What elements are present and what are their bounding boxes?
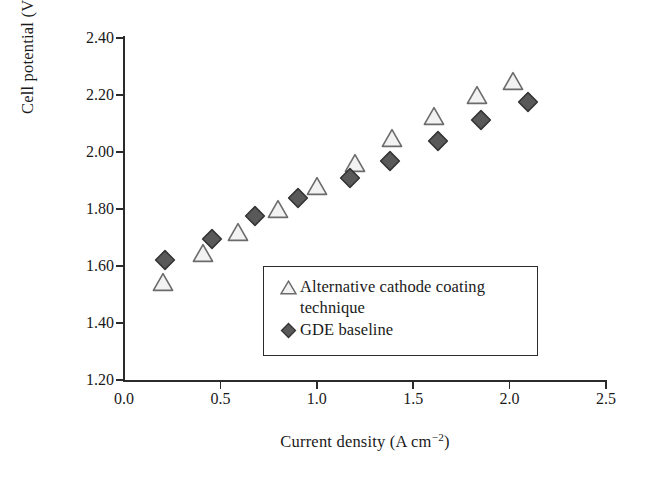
x-axis-title: Current density (A cm−2): [124, 432, 606, 452]
x-tick-label: 1.0: [287, 390, 347, 408]
legend-item-alternative-cathode-coating-technique[interactable]: Alternative cathode coatingtechnique: [276, 276, 527, 318]
y-tick-label: 1.40: [62, 314, 114, 332]
triangle-open-icon: [276, 277, 300, 298]
y-tick-mark: [116, 322, 124, 324]
y-tick-label: 2.00: [62, 143, 114, 161]
y-tick-label: 1.60: [62, 257, 114, 275]
x-axis-tick-labels: 0.00.51.01.52.02.5: [0, 390, 653, 414]
y-tick-label: 2.20: [62, 86, 114, 104]
x-axis-spine: [123, 380, 607, 382]
data-point-alternative: [152, 272, 174, 292]
x-tick-label: 1.5: [383, 390, 443, 408]
diamond-filled-icon: [276, 320, 300, 341]
data-point-gde-baseline: [154, 249, 176, 271]
legend-label-gde-baseline: GDE baseline: [300, 319, 393, 340]
y-axis-title: Cell potential (V): [18, 0, 44, 244]
x-axis-title-base: Current density (A cm: [280, 432, 431, 451]
data-point-gde-baseline: [201, 228, 223, 250]
legend-item-gde-baseline[interactable]: GDE baseline: [276, 319, 527, 341]
data-point-gde-baseline: [244, 205, 266, 227]
data-point-gde-baseline: [470, 109, 492, 131]
x-tick-label: 2.5: [576, 390, 636, 408]
y-tick-label: 2.40: [62, 29, 114, 47]
x-tick-mark: [605, 381, 607, 389]
y-tick-mark: [116, 379, 124, 381]
y-tick-mark: [116, 208, 124, 210]
legend-box: Alternative cathode coatingtechnique GDE…: [263, 266, 538, 356]
chart-figure: Cell potential (V) Current density (A cm…: [0, 0, 653, 482]
x-axis-title-exponent: −2: [432, 431, 444, 443]
x-tick-mark: [220, 381, 222, 389]
data-point-gde-baseline: [339, 167, 361, 189]
y-tick-mark: [116, 94, 124, 96]
x-tick-mark: [316, 381, 318, 389]
data-point-gde-baseline: [379, 150, 401, 172]
x-axis-title-tail: ): [444, 432, 450, 451]
legend-label-alternative: Alternative cathode coatingtechnique: [300, 276, 485, 318]
data-point-gde-baseline: [287, 187, 309, 209]
y-tick-label: 1.20: [62, 371, 114, 389]
y-tick-mark: [116, 151, 124, 153]
legend-label-alternative-line2: technique: [300, 298, 365, 317]
x-tick-mark: [509, 381, 511, 389]
y-tick-mark: [116, 265, 124, 267]
legend-label-alternative-line1: Alternative cathode coating: [300, 277, 485, 296]
data-point-gde-baseline: [517, 91, 539, 113]
data-point-alternative: [381, 128, 403, 148]
data-point-alternative: [306, 176, 328, 196]
data-point-gde-baseline: [427, 130, 449, 152]
y-tick-mark: [116, 37, 124, 39]
data-point-alternative: [502, 71, 524, 91]
data-point-alternative: [466, 85, 488, 105]
y-tick-label: 1.80: [62, 200, 114, 218]
x-tick-label: 2.0: [480, 390, 540, 408]
data-point-alternative: [423, 106, 445, 126]
x-tick-mark: [412, 381, 414, 389]
x-tick-label: 0.0: [94, 390, 154, 408]
x-tick-label: 0.5: [190, 390, 250, 408]
